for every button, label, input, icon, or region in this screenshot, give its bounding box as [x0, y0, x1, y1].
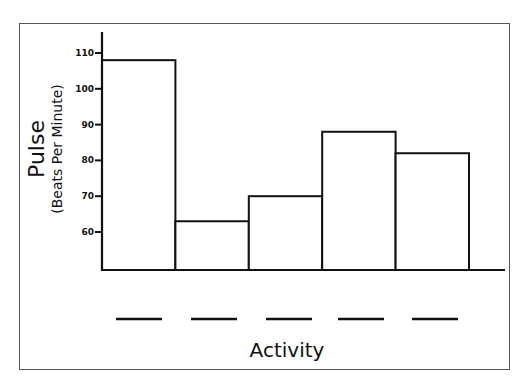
bar-1 — [102, 60, 175, 270]
y-axis-title: Pulse — [24, 120, 49, 178]
bar-4 — [322, 132, 395, 270]
y-tick-label: 110 — [75, 48, 94, 58]
y-tick-label: 90 — [81, 120, 94, 130]
y-axis-subtitle: (Beats Per Minute) — [49, 84, 65, 214]
y-tick-label: 80 — [81, 155, 94, 165]
bars-group — [102, 60, 469, 270]
y-tick-label: 100 — [75, 84, 94, 94]
y-tick-label: 70 — [81, 191, 94, 201]
bar-2 — [175, 221, 248, 270]
bar-3 — [249, 196, 322, 270]
y-ticks-group: 60708090100110 — [75, 48, 102, 237]
bar-5 — [396, 153, 469, 270]
x-axis-title: Activity — [250, 338, 325, 362]
y-tick-label: 60 — [81, 227, 94, 237]
bar-chart: 60708090100110 Pulse (Beats Per Minute) … — [0, 0, 528, 387]
